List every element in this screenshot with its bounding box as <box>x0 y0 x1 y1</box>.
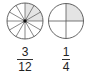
denominator: 12 <box>15 61 35 73</box>
denominator: 4 <box>56 61 76 73</box>
fraction-three-twelfths: 3 12 <box>15 46 35 73</box>
numerator: 1 <box>56 46 76 58</box>
center-dot <box>24 20 27 23</box>
numerator: 3 <box>15 46 35 58</box>
fraction-one-quarter: 1 4 <box>56 46 76 73</box>
twelfths-circle <box>7 3 43 39</box>
quarters-circle <box>49 3 85 39</box>
